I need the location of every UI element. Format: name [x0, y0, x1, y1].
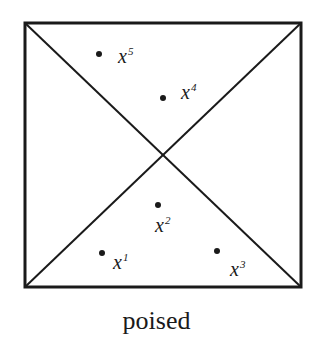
point-label: x1	[112, 251, 128, 273]
figure-caption: poised	[0, 306, 313, 336]
point-label: x3	[229, 258, 246, 280]
point-x1: x1	[99, 250, 128, 273]
point-dot	[155, 202, 161, 208]
point-dot	[96, 51, 102, 57]
point-dot	[214, 248, 220, 254]
point-x4: x4	[160, 81, 197, 103]
point-dot	[99, 250, 105, 256]
point-label: x2	[154, 214, 171, 236]
poised-diagram: x1x2x3x4x5	[0, 0, 313, 355]
point-label: x4	[180, 81, 197, 103]
point-x2: x2	[154, 202, 171, 236]
point-x3: x3	[214, 248, 246, 280]
point-x5: x5	[96, 45, 134, 67]
point-dot	[160, 95, 166, 101]
point-label: x5	[117, 45, 134, 67]
